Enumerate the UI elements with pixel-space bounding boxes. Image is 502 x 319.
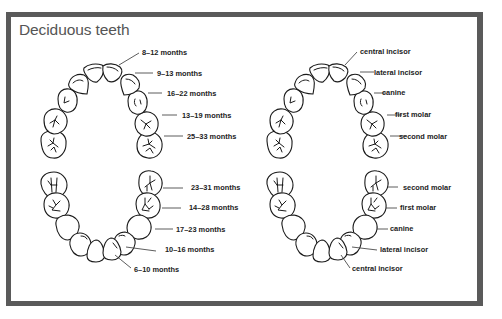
name-label-second-molar: second molar <box>399 132 447 141</box>
name-label-lateral-incisor: lateral incisor <box>374 68 422 77</box>
eruption-label-lower-central-incisor: 6–10 months <box>134 265 179 274</box>
name-label-central-incisor: central incisor <box>360 47 411 56</box>
name-label-first-molar: first molar <box>395 110 431 119</box>
eruption-label-lower-canine: 17–23 months <box>176 225 225 234</box>
lower-eruption-diagram: 23–31 months 14–28 months 17–23 months 1… <box>41 171 240 274</box>
eruption-label-canine: 16–22 months <box>167 89 216 98</box>
eruption-label-lower-second-molar: 23–31 months <box>191 183 240 192</box>
eruption-label-central-incisor: 8–12 months <box>142 48 187 57</box>
eruption-label-lateral-incisor: 9–13 months <box>157 69 202 78</box>
name-label-lower-second-molar: second molar <box>403 183 451 192</box>
eruption-label-lower-first-molar: 14–28 months <box>189 203 238 212</box>
eruption-label-second-molar: 25–33 months <box>187 132 236 141</box>
name-label-lower-canine: canine <box>390 224 413 233</box>
eruption-label-lower-lateral-incisor: 10–16 months <box>165 245 214 254</box>
eruption-label-first-molar: 13–19 months <box>182 111 231 120</box>
name-label-lower-central-incisor: central incisor <box>352 264 403 273</box>
upper-eruption-diagram: 8–12 months 9–13 months 16–22 months 13–… <box>41 48 236 158</box>
lower-names-diagram: second molar first molar canine lateral … <box>267 171 451 273</box>
name-label-lower-first-molar: first molar <box>400 203 436 212</box>
teeth-diagram: 8–12 months 9–13 months 16–22 months 13–… <box>0 0 502 319</box>
upper-names-diagram: central incisor lateral incisor canine f… <box>267 47 447 158</box>
name-label-lower-lateral-incisor: lateral incisor <box>380 245 428 254</box>
name-label-canine: canine <box>382 88 405 97</box>
